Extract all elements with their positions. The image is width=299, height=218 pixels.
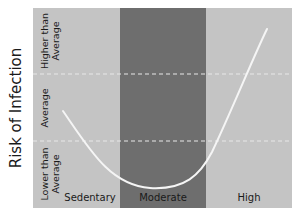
band-label-high: High xyxy=(238,192,261,203)
zone-label-lower-line2: Average xyxy=(50,154,61,193)
zone-label-higher-line2: Average xyxy=(50,21,61,60)
band-label-moderate: Moderate xyxy=(139,192,187,203)
y-axis-title: Risk of Infection xyxy=(7,48,25,169)
zone-label-lower-line1: Lower than xyxy=(39,147,50,200)
zone-label-lower: Lower than Average xyxy=(39,147,61,200)
zone-label-average-text: Average xyxy=(39,88,50,127)
risk-of-infection-chart: Risk of Infection Higher than Average Av… xyxy=(0,0,299,218)
band-high xyxy=(206,8,292,208)
band-label-sedentary: Sedentary xyxy=(64,192,115,203)
zone-label-higher-line1: Higher than xyxy=(39,13,50,69)
zone-label-average: Average xyxy=(39,88,50,127)
